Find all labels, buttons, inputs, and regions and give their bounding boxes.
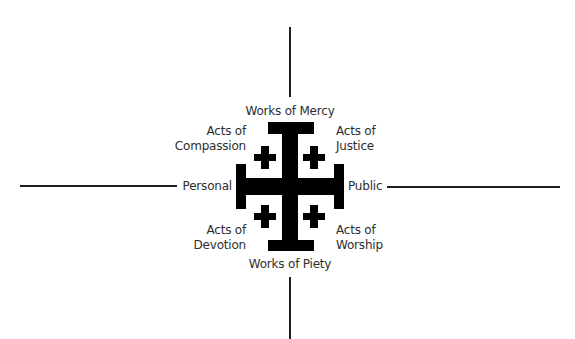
axis-line-top: [289, 27, 291, 97]
cross-horizontal-arm: [236, 178, 344, 195]
quadrant-label-bottom-left: Acts of Devotion: [166, 223, 246, 253]
cross-left-bar: [236, 164, 246, 209]
axis-line-right: [387, 186, 560, 188]
axis-line-left: [20, 185, 177, 187]
label-top-works-of-mercy: Works of Mercy: [240, 104, 340, 119]
label-bottom-works-of-piety: Works of Piety: [240, 257, 340, 272]
quadrant-label-bottom-right: Acts of Worship: [336, 223, 416, 253]
axis-line-bottom: [289, 277, 291, 339]
cross-top-bar: [268, 122, 314, 134]
quadrant-label-top-right: Acts of Justice: [336, 124, 416, 154]
clipped-text-remnant: [80, 0, 500, 3]
label-right-public: Public: [348, 179, 408, 194]
quadrant-label-top-left: Acts of Compassion: [166, 124, 246, 154]
label-left-personal: Personal: [162, 179, 232, 194]
cross-bottom-bar: [268, 240, 314, 251]
cross-right-bar: [334, 164, 344, 209]
diagram-canvas: Works of Mercy Works of Piety Personal P…: [0, 0, 575, 339]
